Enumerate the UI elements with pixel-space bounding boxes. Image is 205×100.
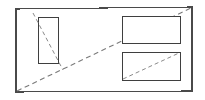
line-drawing-svg: [0, 0, 205, 100]
upper-right-landscape-rectangle: [122, 16, 180, 43]
diagram-canvas: [0, 0, 205, 100]
left-portrait-rectangle: [38, 17, 58, 63]
